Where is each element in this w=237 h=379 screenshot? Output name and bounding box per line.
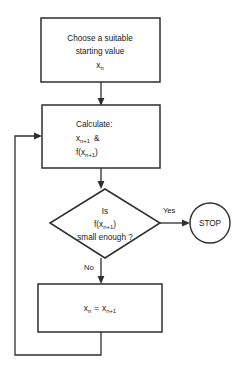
- node-calculate-l3-base: f(x: [76, 148, 85, 157]
- node-choose-var-sub: n: [100, 65, 103, 71]
- node-decision-l2-base: f(x: [94, 220, 103, 229]
- arrowhead-icon: [182, 220, 190, 227]
- edge-calculate-to-decision: [98, 168, 105, 189]
- node-update-sub-right: n+1: [106, 308, 116, 314]
- node-calculate-l2-sub: n+1: [80, 138, 90, 144]
- node-choose-line2: starting value: [76, 47, 125, 56]
- node-choose-line1: Choose a suitable: [67, 34, 133, 43]
- node-decision-line3: small enough ?: [77, 233, 133, 242]
- edge-decision-to-stop: [160, 220, 190, 227]
- edge-label-yes: Yes: [163, 206, 176, 215]
- node-update-x[interactable]: [38, 284, 162, 332]
- flowchart-svg: Choose a suitable starting value xn Calc…: [0, 0, 237, 379]
- arrowhead-icon: [34, 133, 42, 140]
- node-calculate-l3-sub: n+1: [85, 152, 95, 158]
- flowchart-canvas: Choose a suitable starting value xn Calc…: [0, 0, 237, 379]
- arrowhead-icon: [98, 181, 105, 189]
- edge-start-to-calculate: [98, 82, 105, 106]
- node-calculate-l3-tail: ): [95, 148, 98, 157]
- node-calculate[interactable]: [42, 105, 160, 168]
- node-calculate-l2-tail: &: [94, 134, 100, 143]
- arrowhead-icon: [98, 276, 105, 284]
- edge-label-no: No: [84, 263, 94, 272]
- node-update-sub-left: n: [88, 308, 91, 314]
- node-calculate-line1: Calculate:: [76, 120, 112, 129]
- node-stop-label: STOP: [199, 219, 222, 228]
- edge-decision-to-update: [98, 258, 105, 284]
- node-decision-l2-sub: n+1: [103, 224, 113, 230]
- node-update-operator: =: [94, 304, 99, 313]
- node-decision-line1: Is: [102, 207, 108, 216]
- node-decision-l2-tail: ): [113, 220, 116, 229]
